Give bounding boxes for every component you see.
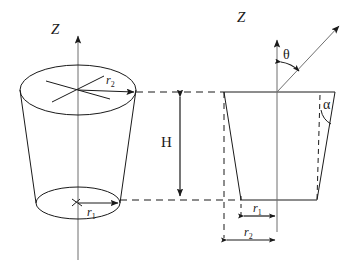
trapezoid-outline (224, 92, 335, 200)
right-z-axis-label: Z (237, 10, 245, 25)
diagram-svg (0, 0, 351, 276)
r2-label-section: r2 (244, 226, 253, 241)
r1-label-section-sub: 1 (258, 208, 262, 217)
r2-label-3d: r2 (106, 74, 115, 89)
figure-canvas: Z Z H θ α r2 r1 r1 r2 (0, 0, 351, 276)
theta-label: θ (283, 48, 290, 62)
alpha-arc (321, 110, 331, 124)
r1-label-3d-sub: 1 (92, 212, 96, 221)
r1-label-3d: r1 (87, 206, 96, 221)
right-crosssection-group (224, 26, 339, 238)
r2-label-3d-sub: 2 (111, 80, 115, 89)
height-label: H (161, 135, 172, 150)
theta-arc (281, 62, 299, 71)
left-z-axis-label: Z (51, 22, 59, 37)
alpha-label: α (323, 98, 330, 112)
frustum-wall-right (120, 90, 136, 203)
r1-label-section: r1 (253, 202, 262, 217)
left-frustum-group (20, 36, 136, 260)
r2-label-section-sub: 2 (249, 232, 253, 241)
r2-radius-arrow-3d (78, 90, 134, 92)
frustum-wall-left (20, 90, 36, 203)
